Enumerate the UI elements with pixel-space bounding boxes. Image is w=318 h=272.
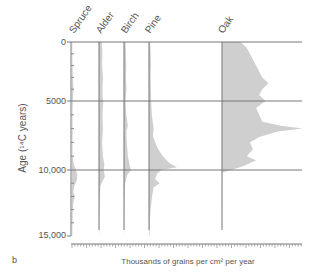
y-tick-10000: 10,000	[38, 165, 66, 175]
curve-alder	[99, 42, 105, 236]
curve-spruce	[72, 42, 77, 236]
y-tick-0: 0	[61, 37, 66, 47]
curve-pine	[149, 42, 177, 236]
age-gridlines	[71, 42, 302, 170]
curve-oak	[222, 42, 303, 236]
y-tick-15000: 15,000	[38, 230, 66, 240]
taxon-label-alder: Alder	[94, 9, 117, 35]
panel-label: b	[12, 255, 17, 265]
taxon-label-spruce: Spruce	[67, 3, 94, 36]
y-tick-5000: 5000	[46, 96, 66, 106]
y-axis-label: Age (¹⁴C years)	[17, 103, 28, 172]
taxon-baselines	[99, 42, 222, 230]
y-axis: 0 5000 10,000 15,000 Age (¹⁴C years)	[17, 37, 74, 240]
curve-birch	[124, 42, 131, 236]
taxon-labels: Spruce Alder Birch Pine Oak	[67, 3, 236, 36]
taxon-label-birch: Birch	[119, 10, 141, 35]
pollen-diagram: 0 5000 10,000 15,000 Age (¹⁴C years) Tho…	[0, 0, 318, 272]
x-axis-label: Thousands of grains per cm² per year	[121, 257, 255, 266]
taxon-label-pine: Pine	[143, 12, 164, 35]
pollen-curves	[72, 42, 303, 236]
taxon-label-oak: Oak	[216, 13, 236, 35]
x-axis: Thousands of grains per cm² per year	[71, 244, 302, 266]
